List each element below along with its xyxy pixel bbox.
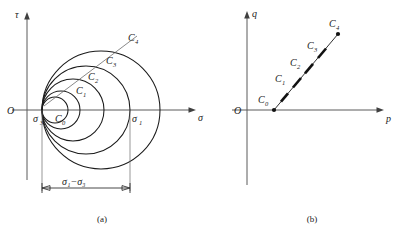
sigma-axis-label: σ <box>198 112 204 123</box>
circle-label-c0-name: C <box>55 113 62 124</box>
point-label-c4: C 4 <box>329 18 340 31</box>
sigma1-subscript: 1 <box>139 119 142 126</box>
circle-label-c3: C 3 <box>106 55 117 68</box>
circle-label-c1-name: C <box>76 85 83 96</box>
path-tick-4 <box>318 49 326 59</box>
circle-label-c4: C 4 <box>128 32 139 45</box>
path-tick-2 <box>293 78 301 88</box>
circle-label-c2-name: C <box>88 71 95 82</box>
point-label-c1-sub: 1 <box>282 79 285 86</box>
tau-axis-arrowhead <box>24 12 30 20</box>
circle-label-c3-sub: 3 <box>112 61 117 68</box>
point-label-c3-name: C <box>307 40 314 51</box>
circle-label-c4-name: C <box>128 32 135 43</box>
point-label-c4-name: C <box>329 18 336 29</box>
circle-label-c2: C 2 <box>88 71 99 84</box>
circle-label-c1-sub: 1 <box>83 91 86 98</box>
point-label-c4-sub: 4 <box>336 24 340 31</box>
sigma1-symbol: σ <box>132 113 138 124</box>
path-tick-1 <box>281 93 288 101</box>
tau-axis-label: τ <box>15 9 19 20</box>
mohr-circle-figure: τ σ O σ 3 σ 1 σ₁−σ₃ C 0 C 1 C 2 C 3 <box>0 0 401 232</box>
panel-a: τ σ O σ 3 σ 1 σ₁−σ₃ C 0 C 1 C 2 C 3 <box>7 9 204 224</box>
point-c4 <box>336 32 340 36</box>
origin-label-a: O <box>7 105 14 116</box>
panel-b-caption: (b) <box>307 214 318 224</box>
p-axis-arrowhead <box>377 107 385 113</box>
panel-b: q p O C 0 C 1 C 2 C 3 C 4 (b) <box>232 8 391 224</box>
circle-label-c3-name: C <box>106 55 113 66</box>
point-label-c2-sub: 2 <box>297 63 301 70</box>
q-axis-arrowhead <box>244 11 250 19</box>
origin-label-b: O <box>234 105 241 116</box>
point-label-c2-name: C <box>290 57 297 68</box>
q-axis-label: q <box>252 8 257 19</box>
circle-label-c0: C 0 <box>55 113 66 126</box>
sigma1-label: σ 1 <box>132 113 142 126</box>
circle-label-c1: C 1 <box>76 85 86 98</box>
p-axis-label: p <box>385 113 391 124</box>
circle-label-c2-sub: 2 <box>95 77 99 84</box>
point-label-c2: C 2 <box>290 57 301 70</box>
deviator-stress-label: σ₁−σ₃ <box>62 176 86 187</box>
circle-label-c4-sub: 4 <box>135 38 139 45</box>
point-label-c0: C 0 <box>258 94 269 107</box>
point-label-c1: C 1 <box>275 73 285 86</box>
point-label-c3: C 3 <box>307 40 318 53</box>
panel-a-caption: (a) <box>97 214 107 224</box>
circle-label-c0-sub: 0 <box>62 119 66 126</box>
point-c0 <box>272 108 276 112</box>
path-tick-3 <box>305 64 313 74</box>
point-label-c0-name: C <box>258 94 265 105</box>
sigma3-symbol: σ <box>33 113 39 124</box>
point-label-c1-name: C <box>275 73 282 84</box>
sigma-axis-arrowhead <box>189 107 197 113</box>
point-label-c3-sub: 3 <box>313 46 318 53</box>
point-label-c0-sub: 0 <box>265 100 269 107</box>
